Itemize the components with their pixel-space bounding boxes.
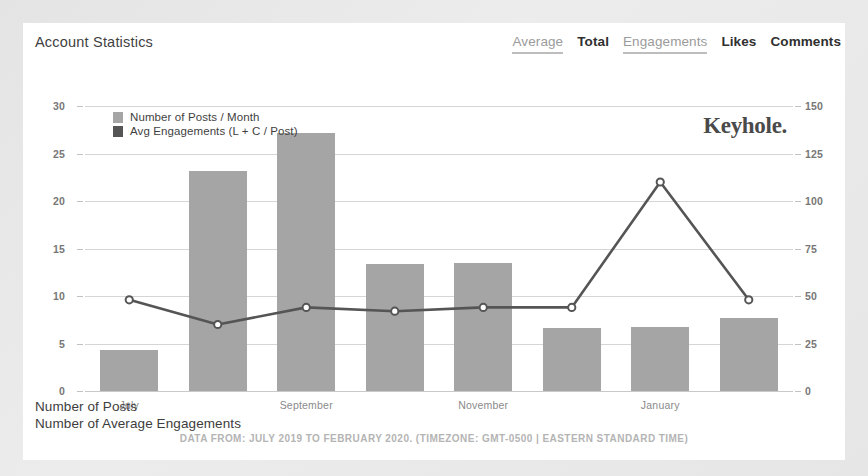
line-series-engagements: July: 48August: 35September: 44October: … [85,106,793,391]
line-marker[interactable]: July: 48 [126,296,133,303]
legend-item-engagements: Avg Engagements (L + C / Post) [113,124,298,138]
chart-legend: Number of Posts / Month Avg Engagements … [113,110,298,138]
y-axis-right-tick: 50 [805,290,817,302]
y-axis-right-tickmark [795,249,801,250]
y-axis-left-tick: 20 [23,195,65,207]
y-axis-left-tickmark [77,201,83,202]
y-axis-left-tickmark [77,106,83,107]
legend-label-engagements: Avg Engagements (L + C / Post) [130,124,298,138]
y-axis-left-tick: 15 [23,243,65,255]
line-marker[interactable]: October: 42 [391,308,398,315]
y-axis-right-tickmark [795,201,801,202]
chart-plot-area: 051015202530 0255075100125150 July: 48Au… [23,61,845,421]
y-axis-left-tick: 30 [23,100,65,112]
line-path [129,182,749,325]
y-axis-right-tick: 75 [805,243,817,255]
y-axis-right-tickmark [795,296,801,297]
line-marker[interactable]: January: 110 [657,178,664,185]
y-axis-right-tickmark [795,106,801,107]
tab-average[interactable]: Average [512,34,563,54]
y-axis-right-tickmark [795,391,801,392]
x-axis-tick-label: September [280,399,333,411]
legend-swatch-engagements [113,126,123,137]
y-axis-right-tick: 100 [805,195,823,207]
data-range-note: DATA FROM: JULY 2019 TO FEBRUARY 2020. (… [180,433,689,444]
legend-label-posts: Number of Posts / Month [130,110,260,124]
tab-total[interactable]: Total [577,34,609,52]
y-axis-left-tick: 0 [23,385,65,397]
tab-likes[interactable]: Likes [721,34,756,52]
legend-item-posts: Number of Posts / Month [113,110,298,124]
x-axis-tick-label: November [458,399,508,411]
caption-number-of-posts: Number of Posts [35,399,241,416]
y-axis-right-tickmark [795,344,801,345]
tab-engagements[interactable]: Engagements [623,34,707,54]
y-axis-left-tick: 25 [23,148,65,160]
y-axis-left-tickmark [77,344,83,345]
keyhole-logo: Keyhole. [703,113,787,139]
y-axis-left-tickmark [77,391,83,392]
legend-swatch-posts [113,112,123,123]
y-axis-left-tick: 5 [23,338,65,350]
y-axis-left-tickmark [77,154,83,155]
line-marker[interactable]: December: 44 [568,304,575,311]
card-footer: DATA FROM: JULY 2019 TO FEBRUARY 2020. (… [23,428,845,446]
x-axis-tick-label: January [641,399,680,411]
line-marker[interactable]: September: 44 [303,304,310,311]
y-axis-left-tickmark [77,249,83,250]
gridline [85,391,793,392]
account-statistics-card: Account Statistics Average Total Engagem… [23,23,845,460]
line-marker[interactable]: November: 44 [480,304,487,311]
y-axis-left-tickmark [77,296,83,297]
y-axis-right-tick: 125 [805,148,823,160]
y-axis-right-tick: 25 [805,338,817,350]
metric-tabs: Average Total Engagements Likes Comments [512,34,841,54]
y-axis-right-tickmark [795,154,801,155]
y-axis-left-tick: 10 [23,290,65,302]
y-axis-right-tick: 0 [805,385,811,397]
y-axis-right-tick: 150 [805,100,823,112]
card-header: Account Statistics Average Total Engagem… [23,23,845,61]
tab-comments[interactable]: Comments [770,34,841,52]
page-title: Account Statistics [35,34,153,50]
line-marker[interactable]: August: 35 [214,321,221,328]
screenshot-root: Account Statistics Average Total Engagem… [0,0,868,476]
line-marker[interactable]: February: 48 [745,296,752,303]
